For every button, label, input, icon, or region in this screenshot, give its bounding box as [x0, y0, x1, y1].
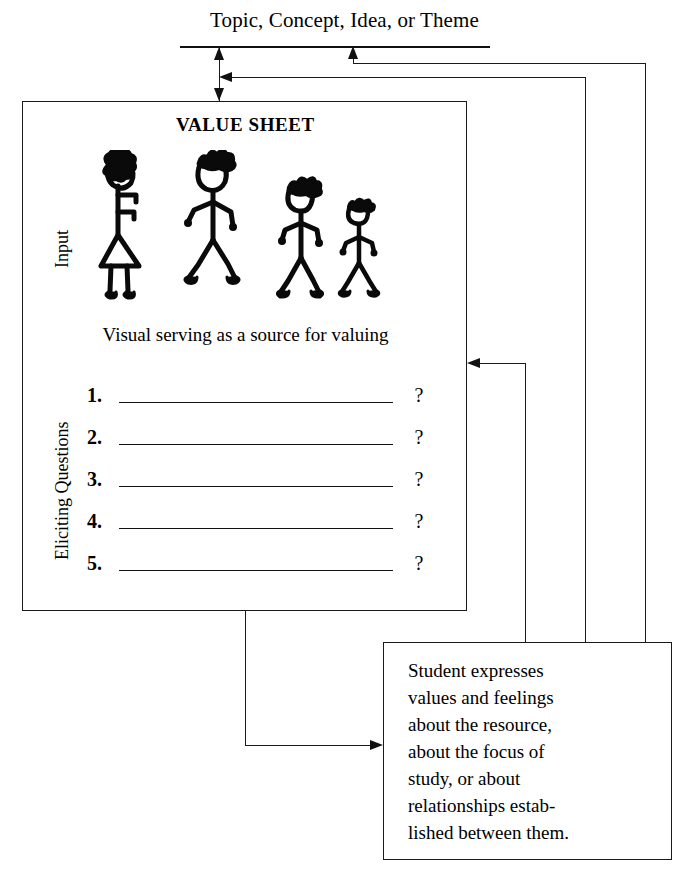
- diagram-canvas: Topic, Concept, Idea, or Theme VALUE SHE…: [0, 0, 689, 878]
- question-number: 1.: [87, 384, 119, 407]
- question-number: 5.: [87, 552, 119, 575]
- value-sheet-box[interactable]: VALUE SHEET: [22, 101, 467, 611]
- question-mark: ?: [411, 468, 427, 491]
- stick-figure-adult-medium: [277, 177, 323, 297]
- connector-feedback-b-horizontal: [353, 63, 645, 64]
- connector-valuesheet-to-output-horizontal: [245, 745, 370, 746]
- question-mark: ?: [411, 552, 427, 575]
- arrowhead-down-to-valuesheet: [214, 88, 224, 101]
- side-label-eliciting-questions: Eliciting Questions: [52, 422, 73, 561]
- question-mark: ?: [411, 426, 427, 449]
- connector-feedback-a-horizontal: [228, 77, 585, 78]
- connector-feedback-b-vertical: [645, 63, 646, 642]
- output-line: about the resource,: [408, 711, 658, 738]
- output-line: Student expresses: [408, 657, 658, 684]
- question-number: 2.: [87, 426, 119, 449]
- question-blank-line[interactable]: [119, 402, 393, 403]
- connector-valuesheet-to-output-vertical: [245, 611, 246, 745]
- output-box-text: Student expresses values and feelings ab…: [408, 657, 658, 846]
- output-line: about the focus of: [408, 738, 658, 765]
- arrowhead-up-feedback-b: [348, 46, 358, 59]
- question-number: 4.: [87, 510, 119, 533]
- arrowhead-up-to-title: [214, 47, 224, 60]
- connector-feedback-a-vertical: [585, 77, 586, 642]
- question-mark: ?: [411, 384, 427, 407]
- side-label-input: Input: [52, 230, 73, 268]
- question-blank-line[interactable]: [119, 570, 393, 571]
- output-line: values and feelings: [408, 684, 658, 711]
- output-box[interactable]: Student expresses values and feelings ab…: [383, 642, 672, 860]
- visual-caption: Visual serving as a source for valuing: [23, 324, 468, 346]
- output-line: study, or about: [408, 765, 658, 792]
- question-mark: ?: [411, 510, 427, 533]
- question-row[interactable]: 5. ?: [87, 542, 427, 584]
- connector-feedback-c-vertical: [525, 363, 526, 642]
- stick-figure-child: [339, 199, 379, 296]
- question-row[interactable]: 4. ?: [87, 500, 427, 542]
- eliciting-questions-list: 1. ? 2. ? 3. ? 4. ? 5. ?: [87, 374, 427, 584]
- question-row[interactable]: 2. ?: [87, 416, 427, 458]
- stick-figure-adult-tall: [184, 150, 239, 283]
- arrowhead-left-feedback-a: [219, 72, 232, 82]
- question-number: 3.: [87, 468, 119, 491]
- arrowhead-left-into-valuesheet: [467, 358, 480, 368]
- connector-feedback-c-horizontal: [480, 363, 525, 364]
- arrowhead-right-into-output: [370, 740, 383, 750]
- question-row[interactable]: 1. ?: [87, 374, 427, 416]
- stick-figure-girl: [101, 150, 139, 298]
- value-sheet-heading: VALUE SHEET: [23, 114, 468, 136]
- question-blank-line[interactable]: [119, 486, 393, 487]
- page-title: Topic, Concept, Idea, or Theme: [0, 8, 689, 33]
- question-blank-line[interactable]: [119, 528, 393, 529]
- question-row[interactable]: 3. ?: [87, 458, 427, 500]
- stick-figures-illustration: [83, 150, 413, 315]
- title-underline: [180, 46, 490, 48]
- output-line: relationships estab-: [408, 792, 658, 819]
- output-line: lished between them.: [408, 819, 658, 846]
- question-blank-line[interactable]: [119, 444, 393, 445]
